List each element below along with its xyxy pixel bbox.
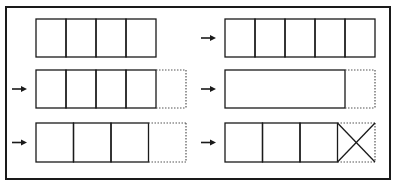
arrow-right-icon [21,86,27,92]
array-cell [126,70,156,108]
array-cell [36,70,66,108]
array-cell [66,19,96,57]
arrow-right-icon [210,140,216,146]
array-cell [126,19,156,57]
arrow-right-icon [210,86,216,92]
array-cell [225,70,345,108]
diagram-svg [0,0,395,185]
array-panel-right-row-2 [201,70,375,108]
array-cell [111,123,149,162]
array-cell [285,19,315,57]
array-cell [225,19,255,57]
array-cell [255,19,285,57]
array-cell [315,19,345,57]
array-cell [66,70,96,108]
array-cell [74,123,112,162]
array-panel-left-row-2 [12,70,186,108]
array-cell [345,19,375,57]
array-panel-right-row-3 [201,123,375,162]
array-cell [96,19,126,57]
outer-frame [6,7,390,179]
array-cell [300,123,338,162]
array-cell [36,19,66,57]
array-cell [263,123,301,162]
array-cell [36,123,74,162]
array-cell [96,70,126,108]
array-panel-right-row-1 [201,19,375,57]
array-cell [225,123,263,162]
array-panel-left-row-1 [36,19,156,57]
arrow-right-icon [21,140,27,146]
array-operations-diagram [0,0,395,185]
arrow-right-icon [210,35,216,41]
array-panel-left-row-3 [12,123,186,162]
